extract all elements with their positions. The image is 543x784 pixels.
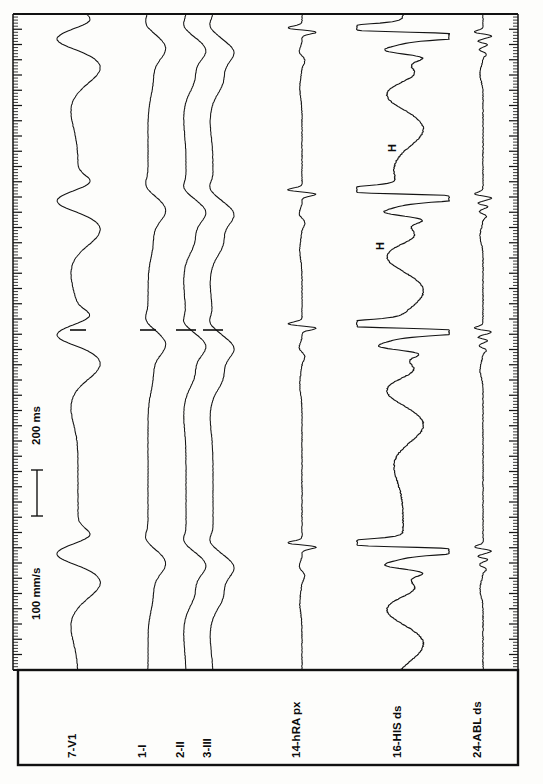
channel-label-24-abl-ds: 24-ABL ds <box>471 701 483 758</box>
recording-sheet: 200 ms 100 mm/s H H 7-V1 1-I 2-II 3-III … <box>0 0 543 784</box>
h-annotation-label: H <box>374 242 386 250</box>
channel-label-16-his-ds: 16-HIS ds <box>391 706 403 758</box>
h-annotation-2: H <box>374 242 386 250</box>
channel-label-1-i: 1-I <box>136 745 148 758</box>
calibration-speed-label: 100 mm/s <box>30 568 42 620</box>
channel-label-7-v1: 7-V1 <box>66 733 78 758</box>
calibration-time-label: 200 ms <box>30 406 42 445</box>
h-annotation-1: H <box>386 144 398 152</box>
h-annotation-label: H <box>386 144 398 152</box>
channel-label-3-iii: 3-III <box>201 738 213 758</box>
paper-background <box>0 0 543 784</box>
channel-label-14-hra-px: 14-hRA px <box>290 701 302 758</box>
channel-label-2-ii: 2-II <box>174 741 186 758</box>
ep-recording-canvas: 200 ms 100 mm/s H H 7-V1 1-I 2-II 3-III … <box>0 0 543 784</box>
